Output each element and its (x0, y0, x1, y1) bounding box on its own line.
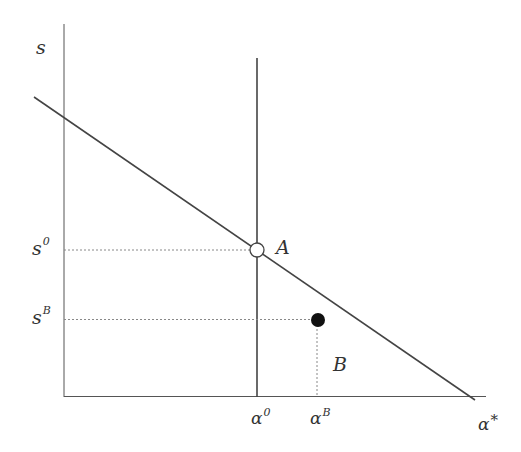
sB-base: s (32, 306, 42, 328)
tick-alpha0: α0 (251, 410, 270, 427)
point-B-filled-circle (311, 313, 325, 327)
x-axis-label: α* (478, 416, 498, 433)
tick-alphaB: αB (310, 410, 331, 427)
y-axis-label: s (36, 38, 46, 57)
x-axis-sup: * (490, 411, 498, 429)
diagram-canvas (0, 0, 521, 452)
s0-sup: 0 (43, 235, 50, 248)
label-B: B (333, 355, 347, 374)
aB-sup: B (322, 406, 330, 419)
label-A: A (276, 238, 290, 257)
a0-sup: 0 (263, 406, 270, 419)
x-axis-base: α (478, 414, 489, 434)
tick-s0: s0 (32, 239, 50, 258)
a0-base: α (251, 408, 262, 428)
s0-base: s (32, 237, 42, 259)
point-A-open-circle (250, 243, 264, 257)
aB-base: α (310, 408, 321, 428)
sB-sup: B (43, 304, 51, 317)
tick-sB: sB (32, 308, 51, 327)
